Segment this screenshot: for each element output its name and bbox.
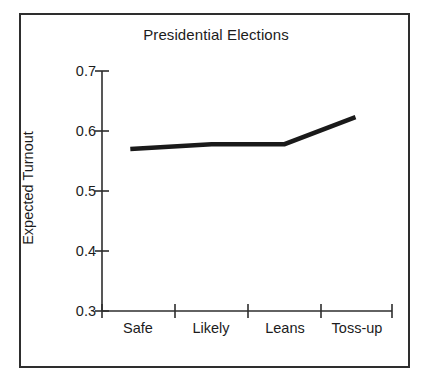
data-series-line [130, 117, 355, 149]
figure-root: Presidential Elections Expected Turnout … [0, 0, 432, 385]
x-axis [102, 304, 392, 318]
plot-area [0, 0, 432, 385]
y-axis [95, 71, 109, 311]
